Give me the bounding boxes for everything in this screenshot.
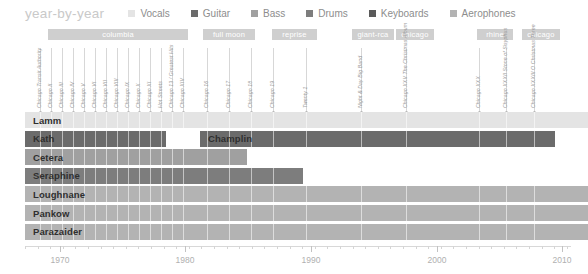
- axis-tick-minor: [353, 246, 354, 249]
- axis-tick-minor: [542, 246, 543, 249]
- album-marker: Chicago VII: [106, 48, 107, 112]
- album-title: Chicago 13 / Greatest Hits: [168, 45, 174, 108]
- legend-item-aerophones: Aerophones: [450, 8, 516, 19]
- axis-tick-minor: [529, 246, 530, 249]
- axis-tick-minor: [151, 246, 152, 249]
- record-label-chip: columbia: [48, 29, 188, 40]
- axis-tick-minor: [38, 246, 39, 249]
- axis-tick-label: 1990: [302, 255, 321, 265]
- album-marker: Chicago XXV The Christmas Album: [406, 48, 407, 112]
- member-row-loughnane: Loughnane: [0, 186, 588, 202]
- axis-tick-minor: [239, 246, 240, 249]
- gridline: [51, 112, 52, 242]
- vocals-swatch-icon: [128, 10, 135, 17]
- album-marker-band: Chicago Transit AuthorityChicago IIChica…: [0, 44, 588, 112]
- album-title: Chicago IV: [69, 82, 75, 108]
- gridline: [139, 112, 140, 242]
- legend-item-vocals: Vocals: [128, 8, 169, 19]
- album-marker: Chicago VI: [95, 48, 96, 112]
- gridline: [84, 112, 85, 242]
- album-title: Chicago IX: [124, 82, 130, 108]
- album-title: Chicago XXXII Stone of Sisyphus: [502, 28, 508, 108]
- gridline: [251, 112, 252, 242]
- axis-tick-minor: [416, 246, 417, 249]
- gridline: [73, 112, 74, 242]
- album-marker: Chicago XIV: [183, 48, 184, 112]
- record-label-chip: chicago: [522, 29, 560, 40]
- gridline: [128, 112, 129, 242]
- member-rows: LammKathChamplinCeteraSeraphineLoughnane…: [0, 112, 588, 242]
- legend-label: Bass: [263, 8, 285, 19]
- axis-tick-label: 1980: [176, 255, 195, 265]
- album-marker: Chicago II: [51, 48, 52, 112]
- keyboards-swatch-icon: [369, 10, 376, 17]
- axis-tick-minor: [113, 246, 114, 249]
- axis-tick-minor: [491, 246, 492, 249]
- album-marker: Night & Day Big Band: [361, 48, 362, 112]
- axis-tick-label: 2010: [553, 255, 572, 265]
- axis-tick-minor: [252, 246, 253, 249]
- axis-tick-minor: [567, 246, 568, 249]
- axis-tick-major: [311, 246, 312, 252]
- album-marker: Chicago V: [84, 48, 85, 112]
- axis-tick-minor: [453, 246, 454, 249]
- gridline: [40, 112, 41, 242]
- gridline: [207, 112, 208, 242]
- axis-tick-minor: [390, 246, 391, 249]
- album-marker: Chicago XI: [150, 48, 151, 112]
- album-title: Chicago 18: [247, 81, 253, 108]
- gridline: [406, 112, 407, 242]
- axis-tick-label: 2000: [428, 255, 447, 265]
- axis-tick-minor: [403, 246, 404, 249]
- axis-tick-major: [185, 246, 186, 252]
- axis-tick-minor: [315, 246, 316, 249]
- album-title: Chicago III: [58, 82, 64, 108]
- album-marker: Chicago VIII: [117, 48, 118, 112]
- axis-tick-minor: [466, 246, 467, 249]
- album-marker: Chicago Transit Authority: [40, 48, 41, 112]
- axis-tick-minor: [214, 246, 215, 249]
- axis-tick-minor: [126, 246, 127, 249]
- album-title: Chicago X: [135, 83, 141, 108]
- member-row-parazaider: Parazaider: [0, 224, 588, 240]
- gridline: [506, 112, 507, 242]
- axis-tick-minor: [365, 246, 366, 249]
- axis-tick-major: [60, 246, 61, 252]
- axis-tick-minor: [189, 246, 190, 249]
- axis-tick-minor: [479, 246, 480, 249]
- gridline: [117, 112, 118, 242]
- legend-item-keyboards: Keyboards: [369, 8, 429, 19]
- album-marker: Chicago IX: [128, 48, 129, 112]
- album-marker: Chicago 16: [207, 48, 208, 112]
- axis-tick-minor: [504, 246, 505, 249]
- axis-tick-minor: [63, 246, 64, 249]
- album-title: Chicago XXV The Christmas Album: [402, 23, 408, 108]
- gridline: [172, 112, 173, 242]
- gridline: [229, 112, 230, 242]
- gridline: [361, 112, 362, 242]
- album-marker: Chicago XXXIII O Christmas Three: [534, 48, 535, 112]
- chart-header: year-by-year VocalsGuitarBassDrumsKeyboa…: [0, 0, 588, 26]
- member-row-seraphine: Seraphine: [0, 168, 588, 184]
- aerophones-swatch-icon: [450, 10, 457, 17]
- album-title: Chicago 17: [225, 81, 231, 108]
- album-title: Chicago V: [80, 83, 86, 108]
- album-title: Chicago 16: [203, 81, 209, 108]
- axis-tick-minor: [302, 246, 303, 249]
- album-title: Chicago XIV: [179, 78, 185, 108]
- album-title: Chicago VII: [102, 80, 108, 108]
- guitar-swatch-icon: [191, 10, 198, 17]
- axis-tick-minor: [340, 246, 341, 249]
- year-axis: 19701980199020002010: [0, 246, 588, 274]
- gridline: [306, 112, 307, 242]
- album-title: Chicago XXX: [475, 76, 481, 108]
- record-label-chip: full moon: [203, 29, 255, 40]
- album-title: Hot Streets: [157, 81, 163, 108]
- axis-tick-major: [437, 246, 438, 252]
- gridline: [161, 112, 162, 242]
- axis-tick-minor: [101, 246, 102, 249]
- axis-tick-minor: [277, 246, 278, 249]
- gridline: [62, 112, 63, 242]
- legend-label: Guitar: [203, 8, 230, 19]
- legend-label: Vocals: [140, 8, 169, 19]
